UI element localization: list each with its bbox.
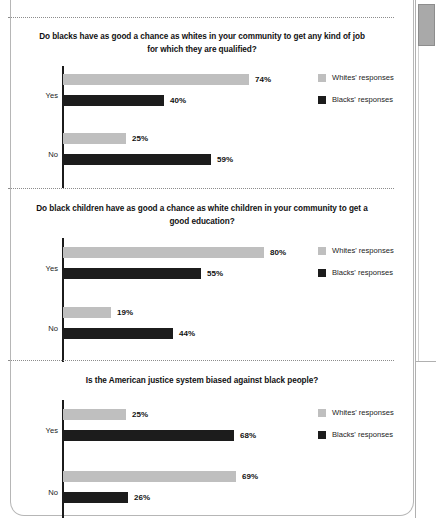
chart-education: Yes 80% 55% No 19% 44% Whites' responses… bbox=[0, 238, 404, 364]
legend-label-whites: Whites' responses bbox=[332, 246, 394, 255]
group-label-no: No bbox=[20, 150, 58, 159]
legend-label-whites: Whites' responses bbox=[332, 408, 394, 417]
scrollbar-track[interactable] bbox=[418, 46, 435, 361]
bar-value-yes-whites: 80% bbox=[270, 248, 286, 257]
bar-no-blacks bbox=[63, 154, 211, 165]
group-label-yes: Yes bbox=[20, 264, 58, 273]
bar-value-no-blacks: 26% bbox=[134, 493, 150, 502]
legend-swatch-whites-icon bbox=[318, 409, 326, 417]
bar-value-no-whites: 25% bbox=[132, 134, 148, 143]
gutter-divider bbox=[415, 361, 436, 362]
section-title-education: Do black children have as good a chance … bbox=[0, 202, 404, 228]
legend-row-blacks: Blacks' responses bbox=[318, 266, 394, 279]
bar-no-blacks bbox=[63, 492, 128, 503]
bar-value-no-whites: 69% bbox=[242, 472, 258, 481]
section-education: Do black children have as good a chance … bbox=[0, 202, 404, 364]
legend-swatch-whites-icon bbox=[318, 74, 326, 82]
bar-value-yes-whites: 74% bbox=[255, 75, 271, 84]
bar-yes-blacks bbox=[63, 268, 201, 279]
bar-yes-blacks bbox=[63, 430, 234, 441]
page-root: DISAGREEMENT AMONG BLACKS AND WHITES Do … bbox=[0, 0, 436, 518]
bar-value-yes-blacks: 40% bbox=[170, 96, 186, 105]
legend-label-blacks: Blacks' responses bbox=[332, 268, 393, 277]
legend-label-whites: Whites' responses bbox=[332, 73, 394, 82]
bar-value-yes-blacks: 55% bbox=[207, 269, 223, 278]
group-label-yes: Yes bbox=[20, 426, 58, 435]
legend-swatch-blacks-icon bbox=[318, 431, 326, 439]
legend-swatch-blacks-icon bbox=[318, 269, 326, 277]
section-title-justice: Is the American justice system biased ag… bbox=[0, 374, 404, 387]
legend-row-blacks: Blacks' responses bbox=[318, 428, 394, 441]
legend-jobs: Whites' responses Blacks' responses bbox=[318, 71, 394, 115]
bar-yes-whites bbox=[63, 409, 126, 420]
section-jobs: Do blacks have as good a chance as white… bbox=[0, 30, 404, 190]
group-label-no: No bbox=[20, 324, 58, 333]
scrollbar-thumb[interactable] bbox=[418, 4, 435, 46]
legend-label-blacks: Blacks' responses bbox=[332, 95, 393, 104]
bar-no-whites bbox=[63, 471, 236, 482]
bar-yes-whites bbox=[63, 247, 264, 258]
group-label-no: No bbox=[20, 488, 58, 497]
legend-swatch-whites-icon bbox=[318, 247, 326, 255]
legend-label-blacks: Blacks' responses bbox=[332, 430, 393, 439]
legend-row-blacks: Blacks' responses bbox=[318, 93, 394, 106]
bar-value-no-whites: 19% bbox=[117, 308, 133, 317]
bar-no-whites bbox=[63, 133, 126, 144]
legend-row-whites: Whites' responses bbox=[318, 244, 394, 257]
group-label-yes: Yes bbox=[20, 91, 58, 100]
bar-yes-blacks bbox=[63, 95, 164, 106]
bar-no-blacks bbox=[63, 328, 173, 339]
legend-justice: Whites' responses Blacks' responses bbox=[318, 406, 394, 450]
section-title-jobs: Do blacks have as good a chance as white… bbox=[0, 30, 404, 56]
divider-1 bbox=[8, 188, 394, 189]
chart-jobs: Yes 74% 40% No 25% 59% Whites' responses… bbox=[0, 66, 404, 190]
bar-value-yes-blacks: 68% bbox=[240, 431, 256, 440]
bar-yes-whites bbox=[63, 74, 249, 85]
legend-education: Whites' responses Blacks' responses bbox=[318, 244, 394, 288]
bar-value-no-blacks: 44% bbox=[179, 329, 195, 338]
page-title: DISAGREEMENT AMONG BLACKS AND WHITES bbox=[16, 0, 356, 2]
divider-2 bbox=[8, 360, 394, 361]
legend-row-whites: Whites' responses bbox=[318, 71, 394, 84]
divider-top bbox=[8, 17, 394, 18]
legend-swatch-blacks-icon bbox=[318, 96, 326, 104]
legend-row-whites: Whites' responses bbox=[318, 406, 394, 419]
chart-justice: Yes 25% 68% No 69% 26% Whites' responses… bbox=[0, 400, 404, 518]
section-justice: Is the American justice system biased ag… bbox=[0, 374, 404, 518]
bar-no-whites bbox=[63, 307, 111, 318]
bar-value-yes-whites: 25% bbox=[132, 410, 148, 419]
bar-value-no-blacks: 59% bbox=[217, 155, 233, 164]
